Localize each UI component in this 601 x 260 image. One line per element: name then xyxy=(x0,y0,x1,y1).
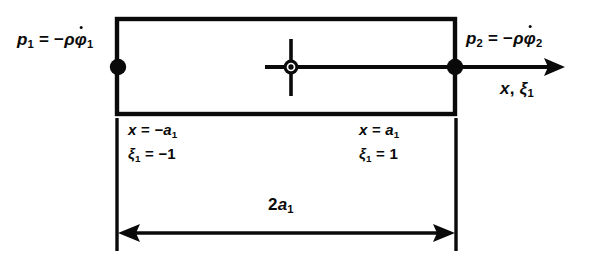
pressure-left-symbol: p xyxy=(17,30,28,49)
dimension-symbol: a xyxy=(278,195,288,214)
right-node-x-coordinate: x = a1 xyxy=(359,122,400,138)
dimension-label: 2a1 xyxy=(268,196,294,214)
axis-label-x: x xyxy=(500,79,510,98)
right-node-xi-var: ξ xyxy=(359,145,366,162)
left-node-x-var: x xyxy=(128,121,137,138)
pressure-label-right: p2 = −ρφ2 xyxy=(466,30,542,48)
center-node-core xyxy=(290,66,293,69)
right-node-xi-equals: = xyxy=(376,145,385,162)
left-node-x-coordinate: x = −a1 xyxy=(128,122,177,138)
left-node-xi-var: ξ xyxy=(128,145,135,162)
pressure-right-phi-dot: φ xyxy=(524,30,536,48)
left-node-x-equals: = xyxy=(141,121,150,138)
dimension-coefficient: 2 xyxy=(268,195,278,214)
pressure-right-subscript: 2 xyxy=(477,37,483,49)
pressure-right-symbol: p xyxy=(466,29,477,48)
axis-label-xi-subscript: 1 xyxy=(527,87,533,99)
left-node-x-subscript: 1 xyxy=(172,129,178,140)
right-node-x-equals: = xyxy=(372,121,381,138)
dimension-subscript: 1 xyxy=(287,203,293,215)
pressure-right-phi: φ xyxy=(524,29,536,48)
left-node-xi-var-subscript: 1 xyxy=(135,153,141,164)
left-node-x-value: −a xyxy=(154,121,172,138)
pressure-label-left: p1 = −ρφ1 xyxy=(17,31,93,49)
pressure-left-minus: − xyxy=(54,30,64,49)
pressure-left-phi-dot: φ xyxy=(75,31,87,49)
pressure-left-phi: φ xyxy=(75,30,87,49)
right-node-x-subscript: 1 xyxy=(394,129,400,140)
pressure-right-minus: − xyxy=(503,29,513,48)
right-node xyxy=(447,59,463,75)
pressure-left-rho: ρ xyxy=(64,30,75,49)
pressure-left-subscript: 1 xyxy=(28,38,34,50)
pressure-right-equals: = xyxy=(488,29,498,48)
pressure-right-phi-subscript: 2 xyxy=(536,37,542,49)
right-node-xi-var-subscript: 1 xyxy=(366,153,372,164)
right-node-xi-value: 1 xyxy=(389,145,398,162)
pressure-left-phi-subscript: 1 xyxy=(87,38,93,50)
pressure-right-rho: ρ xyxy=(513,29,524,48)
right-node-x-value: a xyxy=(385,121,394,138)
left-node xyxy=(110,59,126,75)
axis-label: x, ξ1 xyxy=(500,80,534,98)
right-node-x-var: x xyxy=(359,121,368,138)
right-node-xi-coordinate: ξ1 = 1 xyxy=(359,146,398,162)
fluid-element-diagram: p1 = −ρφ1 p2 = −ρφ2 x, ξ1 x = −a1 ξ1 = −… xyxy=(0,0,601,260)
pressure-left-equals: = xyxy=(39,30,49,49)
left-node-xi-value: −1 xyxy=(158,145,176,162)
axis-label-comma: , xyxy=(510,79,515,98)
left-node-xi-coordinate: ξ1 = −1 xyxy=(128,146,176,162)
left-node-xi-equals: = xyxy=(145,145,154,162)
